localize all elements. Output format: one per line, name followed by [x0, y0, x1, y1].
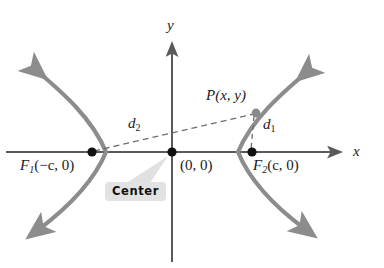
focus-left-letter: F: [20, 157, 29, 173]
distance-d1-letter: d: [263, 116, 271, 132]
diagram-canvas: [0, 0, 384, 268]
distance-d2-letter: d: [128, 115, 136, 131]
focus-right-dot: [247, 147, 256, 156]
point-p-dot: [252, 109, 261, 118]
segment-d1: [251, 116, 254, 150]
focus-left-label: F1(−c, 0): [20, 158, 74, 175]
focus-right-label: F2(c, 0): [253, 158, 299, 175]
focus-left-dot: [87, 147, 96, 156]
focus-right-coords: (c, 0): [267, 157, 299, 173]
focus-left-coords: (−c, 0): [34, 157, 74, 173]
hyperbola-diagram: x y (0, 0) F1(−c, 0) F2(c, 0) P(x, y) d2…: [0, 0, 384, 268]
x-axis-label: x: [353, 144, 360, 159]
origin-label: (0, 0): [180, 158, 213, 173]
distance-d2-label: d2: [128, 116, 141, 133]
point-p-coords: (x, y): [215, 87, 246, 103]
point-p-letter: P: [206, 87, 215, 103]
segment-d2: [94, 114, 254, 151]
point-p-label: P(x, y): [206, 88, 246, 103]
distance-d1-label: d1: [263, 117, 276, 134]
origin-dot: [167, 147, 176, 156]
distance-d1-subscript: 1: [271, 123, 276, 134]
focus-right-letter: F: [253, 157, 262, 173]
distance-d2-subscript: 2: [136, 122, 141, 133]
y-axis-label: y: [167, 18, 174, 33]
center-callout-label: Center: [105, 182, 166, 201]
